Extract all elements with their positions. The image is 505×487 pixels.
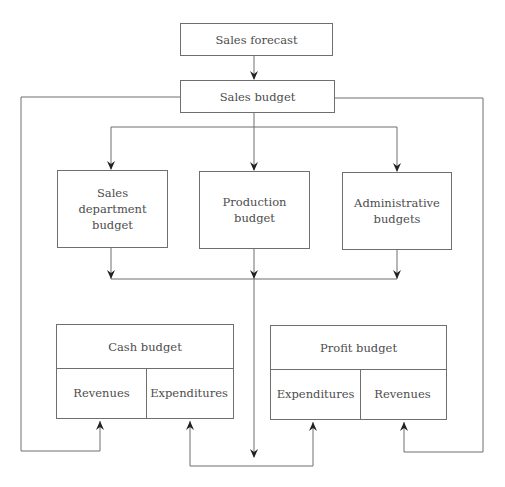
- cash-budget-title: Cash budget: [57, 325, 233, 369]
- cash-budget-box: Cash budget Revenues Expenditures: [56, 324, 234, 419]
- cash-budget-revenues: Revenues: [57, 368, 147, 418]
- sales-department-budget-box: Sales department budget: [57, 170, 168, 248]
- profit-budget-expenditures: Expenditures: [271, 369, 361, 419]
- sales-budget-label: Sales budget: [220, 89, 296, 105]
- administrative-budgets-label: Administrative budgets: [354, 195, 440, 227]
- profit-budget-revenues: Revenues: [359, 369, 446, 419]
- cash-budget-expenditures: Expenditures: [145, 368, 233, 418]
- sales-budget-box: Sales budget: [180, 80, 335, 113]
- production-budget-box: Production budget: [199, 171, 310, 249]
- profit-budget-title: Profit budget: [271, 326, 446, 370]
- profit-budget-box: Profit budget Expenditures Revenues: [270, 325, 447, 420]
- sales-forecast-label: Sales forecast: [215, 32, 297, 48]
- sales-department-budget-label: Sales department budget: [58, 185, 167, 233]
- production-budget-label: Production budget: [223, 194, 287, 226]
- administrative-budgets-box: Administrative budgets: [342, 172, 452, 250]
- sales-forecast-box: Sales forecast: [180, 23, 333, 56]
